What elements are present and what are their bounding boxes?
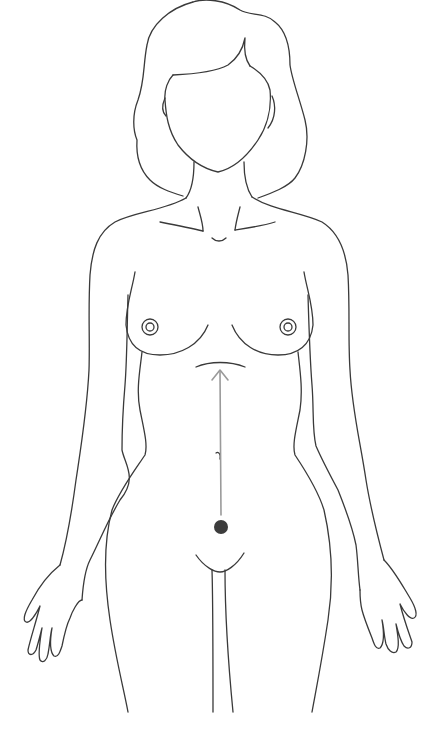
- neck-left: [186, 162, 194, 198]
- left-shoulder-arm-outer: [60, 198, 186, 565]
- direction-arrow: [212, 370, 228, 515]
- torso-left-side: [106, 352, 146, 712]
- start-point-marker: [214, 520, 228, 534]
- right-arm-inner: [308, 295, 360, 590]
- neck-right: [244, 162, 252, 197]
- nipple-left-inner: [146, 323, 154, 331]
- clavicle-left-neck: [198, 207, 203, 231]
- right-shoulder-arm-outer: [252, 197, 384, 560]
- body-illustration: [0, 0, 442, 741]
- right-hand: [360, 560, 416, 653]
- pelvis-curve: [196, 553, 244, 572]
- hair: [134, 0, 307, 198]
- clavicle-right-neck: [235, 207, 240, 230]
- navel: [216, 452, 220, 459]
- breast-left: [126, 272, 208, 355]
- clavicle-right: [235, 222, 275, 230]
- inner-thigh-left: [212, 570, 213, 712]
- inner-thigh-right: [225, 570, 233, 712]
- face-outline: [165, 66, 271, 172]
- diagram-canvas: Female torso front view, line illustrati…: [0, 0, 442, 741]
- ribcage-curve: [196, 363, 245, 368]
- nipple-right-outer: [280, 319, 296, 335]
- left-hand: [24, 565, 82, 662]
- nipple-left-outer: [142, 319, 158, 335]
- nipple-right-inner: [284, 323, 292, 331]
- sternal-notch: [212, 238, 226, 241]
- breast-right: [232, 272, 313, 355]
- clavicle-left: [160, 222, 203, 231]
